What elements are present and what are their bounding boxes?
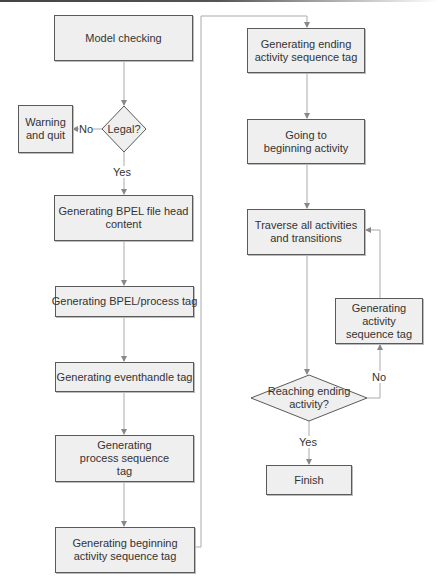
node-traverse: Traverse all activities and transitions <box>247 209 365 255</box>
node-beginning-activity-sequence-tag: Generating beginning activity sequence t… <box>55 527 195 573</box>
node-label: Generating process sequence tag <box>78 439 171 478</box>
node-going-to-beginning: Going to beginning activity <box>247 119 365 164</box>
node-bpel-file-head: Generating BPEL file head content <box>54 195 193 241</box>
node-label: Generating BPEL file head content <box>57 205 190 231</box>
node-label: Generating beginning activity sequence t… <box>68 537 182 563</box>
edge-label-legal-no: No <box>79 123 93 135</box>
edge-label-reaching-no: No <box>372 371 386 383</box>
node-eventhandle-tag: Generating eventhandle tag <box>55 362 194 392</box>
node-label: Generating BPEL/process tag <box>52 295 198 308</box>
node-activity-sequence-tag: Generating activity sequence tag <box>335 298 423 344</box>
edge-activity-seq-to-traverse <box>366 230 380 298</box>
node-label: Warning and quit <box>21 116 70 142</box>
node-label: Legal? <box>107 123 140 136</box>
edge-label-legal-yes: Yes <box>113 166 131 178</box>
node-label: Generating ending activity sequence tag <box>254 38 358 64</box>
node-finish: Finish <box>266 465 352 495</box>
node-label: Traverse all activities and transitions <box>254 219 358 245</box>
node-model-checking: Model checking <box>54 15 193 61</box>
node-label: Reaching ending activity? <box>265 385 353 411</box>
node-label: Going to beginning activity <box>260 129 352 155</box>
node-warning-quit: Warning and quit <box>18 105 73 153</box>
node-bpel-process-tag: Generating BPEL/process tag <box>55 286 194 317</box>
node-reaching-ending: Reaching ending activity? <box>265 377 353 419</box>
node-label: Generating eventhandle tag <box>57 371 193 384</box>
node-label: Model checking <box>85 32 161 45</box>
node-process-sequence-tag: Generating process sequence tag <box>55 435 194 482</box>
node-label: Finish <box>294 474 323 487</box>
node-ending-activity-sequence-tag: Generating ending activity sequence tag <box>247 28 365 73</box>
node-legal: Legal? <box>102 106 146 152</box>
edge-label-reaching-yes: Yes <box>299 436 317 448</box>
node-label: Generating activity sequence tag <box>337 302 421 341</box>
